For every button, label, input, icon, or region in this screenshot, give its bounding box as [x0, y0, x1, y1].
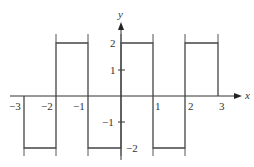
x-axis-label: x [245, 90, 250, 101]
x-tick-label: 1 [155, 101, 161, 112]
x-tick-label: 3 [219, 101, 225, 112]
x-tick-label: −3 [9, 101, 21, 112]
x-tick-label: −1 [73, 101, 85, 112]
x-tick-label: −2 [41, 101, 53, 112]
y-tick-label: 2 [110, 38, 116, 49]
x-axis-arrow-icon [234, 93, 242, 99]
y-tick-label: 1 [110, 65, 116, 76]
y-axis-label: y [118, 9, 123, 20]
y-tick-label: −2 [126, 143, 138, 154]
y-axis-arrow-icon [118, 22, 124, 30]
y-tick-label: −1 [102, 117, 114, 128]
x-tick-label: 2 [188, 101, 194, 112]
